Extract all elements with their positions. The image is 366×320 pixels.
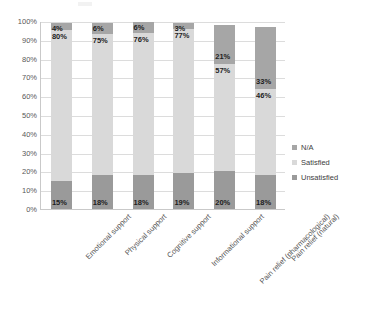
bar-segment-label: 18% bbox=[93, 198, 108, 207]
legend-item-satisfied[interactable]: Satisfied bbox=[292, 155, 362, 170]
bar-segment-label: 19% bbox=[174, 198, 189, 207]
x-axis-labels: Emotional supportPhysical supportCogniti… bbox=[40, 212, 285, 316]
bar-segment-label: 46% bbox=[256, 91, 271, 100]
gridline bbox=[41, 154, 285, 155]
bar-segment-label: 33% bbox=[256, 77, 271, 86]
bar-segment-label: 15% bbox=[52, 198, 67, 207]
chart-legend: N/ASatisfiedUnsatisfied bbox=[292, 140, 362, 185]
x-axis-label: Pain relief (natural) bbox=[289, 212, 340, 263]
bar-segment-label: 21% bbox=[215, 52, 230, 61]
y-axis-tick-label: 0% bbox=[1, 206, 37, 214]
x-axis-label: Informational support bbox=[210, 212, 266, 268]
bar-segment-label: 6% bbox=[134, 23, 145, 32]
bar-segment-satisfied: 57% bbox=[214, 64, 235, 171]
bar-segment-n-a: 6% bbox=[133, 22, 154, 33]
y-axis-tick-label: 60% bbox=[1, 93, 37, 101]
bar-segment-label: 18% bbox=[134, 198, 149, 207]
bar-segment-satisfied: 80% bbox=[51, 30, 72, 180]
gridline bbox=[41, 22, 285, 23]
bar-segment-n-a: 21% bbox=[214, 25, 235, 64]
bar-segment-label: 75% bbox=[93, 36, 108, 45]
y-axis-tick-label: 70% bbox=[1, 74, 37, 82]
legend-item-unsatisfied[interactable]: Unsatisfied bbox=[292, 170, 362, 185]
x-axis-label: Pain relief (pharmacological) bbox=[258, 212, 332, 286]
bar-segment-label: 20% bbox=[215, 198, 230, 207]
bar-segment-unsatisfied: 19% bbox=[173, 173, 194, 209]
legend-swatch-icon bbox=[292, 175, 297, 180]
bar-segment-n-a: 3% bbox=[173, 23, 194, 29]
y-axis-tick-label: 50% bbox=[1, 112, 37, 120]
bar-column: 19%77%3% bbox=[173, 22, 194, 209]
bar-segment-unsatisfied: 18% bbox=[255, 175, 276, 209]
y-axis-tick-label: 90% bbox=[1, 37, 37, 45]
y-axis-tick-label: 20% bbox=[1, 168, 37, 176]
gridline bbox=[41, 60, 285, 61]
bar-segment-satisfied: 77% bbox=[173, 29, 194, 174]
gridline bbox=[41, 97, 285, 98]
plot-area: 15%80%4%18%75%6%18%76%6%19%77%3%20%57%21… bbox=[40, 22, 285, 210]
bar-column: 18%75%6% bbox=[92, 22, 113, 209]
gridline bbox=[41, 172, 285, 173]
gridline bbox=[41, 135, 285, 136]
gridline bbox=[41, 191, 285, 192]
bar-segment-n-a: 33% bbox=[255, 27, 276, 89]
legend-swatch-icon bbox=[292, 145, 297, 150]
legend-label: Unsatisfied bbox=[301, 173, 338, 182]
bar-segment-label: 76% bbox=[134, 35, 149, 44]
stacked-bar-chart: 100%90%80%70%60%50%40%30%20%10%0% 15%80%… bbox=[0, 0, 366, 320]
bar-segment-label: 18% bbox=[256, 198, 271, 207]
bar-segment-n-a: 6% bbox=[92, 23, 113, 34]
bar-segment-label: 80% bbox=[52, 32, 67, 41]
bar-segment-satisfied: 46% bbox=[255, 89, 276, 175]
bar-segment-satisfied: 75% bbox=[92, 34, 113, 175]
bar-segment-unsatisfied: 18% bbox=[133, 175, 154, 209]
bar-column: 15%80%4% bbox=[51, 22, 72, 209]
legend-label: N/A bbox=[301, 143, 314, 152]
scan-artifact bbox=[78, 2, 92, 6]
y-axis-tick-label: 10% bbox=[1, 187, 37, 195]
bar-segment-label: 4% bbox=[52, 24, 63, 33]
bar-segment-unsatisfied: 18% bbox=[92, 175, 113, 209]
y-axis-tick-label: 100% bbox=[1, 18, 37, 26]
gridline bbox=[41, 41, 285, 42]
x-axis-label: Cognitive support bbox=[165, 212, 213, 260]
legend-label: Satisfied bbox=[301, 158, 330, 167]
bar-column: 18%76%6% bbox=[133, 22, 154, 209]
y-axis-tick-label: 30% bbox=[1, 150, 37, 158]
bar-segment-label: 6% bbox=[93, 24, 104, 33]
bar-segment-unsatisfied: 15% bbox=[51, 181, 72, 209]
bar-column: 20%57%21% bbox=[214, 22, 235, 209]
bar-column: 18%46%33% bbox=[255, 22, 276, 209]
gridline bbox=[41, 116, 285, 117]
y-axis: 100%90%80%70%60%50%40%30%20%10%0% bbox=[0, 22, 37, 210]
legend-item-n-a[interactable]: N/A bbox=[292, 140, 362, 155]
y-axis-tick-label: 80% bbox=[1, 56, 37, 64]
legend-swatch-icon bbox=[292, 160, 297, 165]
bar-segment-label: 3% bbox=[174, 24, 185, 33]
bar-segment-n-a: 4% bbox=[51, 23, 72, 31]
gridline bbox=[41, 78, 285, 79]
bar-segment-satisfied: 76% bbox=[133, 33, 154, 175]
bar-segment-unsatisfied: 20% bbox=[214, 171, 235, 209]
bar-segment-label: 57% bbox=[215, 66, 230, 75]
y-axis-tick-label: 40% bbox=[1, 131, 37, 139]
